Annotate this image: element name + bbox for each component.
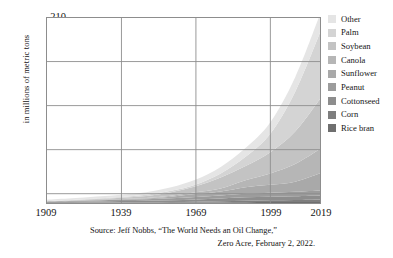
legend-swatch-icon bbox=[328, 83, 336, 91]
legend-item-label: Other bbox=[341, 15, 361, 24]
stacked-area-chart-figure: in millions of metric tons 1060110160210… bbox=[0, 0, 393, 258]
legend-swatch-icon bbox=[328, 29, 336, 37]
legend-swatch-icon bbox=[328, 124, 336, 132]
caption-line-2: Zero Acre, February 2, 2022. bbox=[46, 238, 321, 251]
legend-item-label: Cottonseed bbox=[341, 97, 380, 106]
legend-item-peanut[interactable]: Peanut bbox=[328, 80, 392, 94]
x-tick-label: 2019 bbox=[299, 208, 343, 219]
x-tick-label: 1909 bbox=[24, 208, 68, 219]
x-tick-label: 1939 bbox=[99, 208, 143, 219]
legend-item-label: Palm bbox=[341, 28, 359, 37]
legend-item-label: Corn bbox=[341, 110, 358, 119]
y-axis-title: in millions of metric tons bbox=[21, 0, 31, 159]
legend-item-canola[interactable]: Canola bbox=[328, 53, 392, 67]
legend-item-rice-bran[interactable]: Rice bran bbox=[328, 122, 392, 136]
figure-caption: Source: Jeff Nobbs, “The World Needs an … bbox=[46, 225, 321, 250]
legend-item-label: Peanut bbox=[341, 83, 364, 92]
plot-area bbox=[46, 17, 321, 204]
legend-swatch-icon bbox=[328, 97, 336, 105]
legend-swatch-icon bbox=[328, 56, 336, 64]
legend-item-soybean[interactable]: Soybean bbox=[328, 39, 392, 53]
legend-item-cottonseed[interactable]: Cottonseed bbox=[328, 94, 392, 108]
legend-swatch-icon bbox=[328, 111, 336, 119]
x-tick-label: 1999 bbox=[249, 208, 293, 219]
legend-item-label: Soybean bbox=[341, 42, 371, 51]
x-tick-label: 1969 bbox=[174, 208, 218, 219]
chart-legend: OtherPalmSoybeanCanolaSunflowerPeanutCot… bbox=[328, 12, 392, 135]
legend-item-sunflower[interactable]: Sunflower bbox=[328, 67, 392, 81]
chart-canvas bbox=[47, 18, 320, 203]
legend-swatch-icon bbox=[328, 42, 336, 50]
legend-item-palm[interactable]: Palm bbox=[328, 26, 392, 40]
legend-item-label: Rice bran bbox=[341, 124, 374, 133]
legend-item-corn[interactable]: Corn bbox=[328, 108, 392, 122]
legend-swatch-icon bbox=[328, 70, 336, 78]
legend-item-other[interactable]: Other bbox=[328, 12, 392, 26]
caption-line-1: Source: Jeff Nobbs, “The World Needs an … bbox=[90, 226, 277, 235]
legend-item-label: Sunflower bbox=[341, 69, 377, 78]
legend-item-label: Canola bbox=[341, 56, 365, 65]
legend-swatch-icon bbox=[328, 15, 336, 23]
